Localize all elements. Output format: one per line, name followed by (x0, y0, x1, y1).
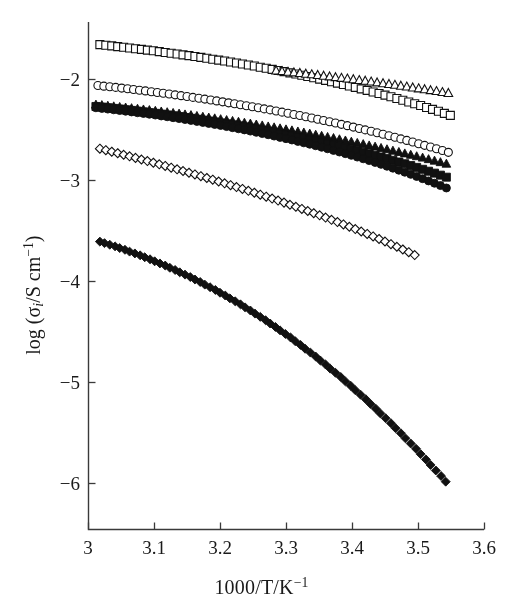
x-axis-title-main: 1000/T/K (214, 576, 293, 598)
x-tick-label-2: 3.2 (208, 538, 232, 557)
plot-canvas (0, 0, 523, 616)
y-tick-label-2: −4 (52, 272, 80, 291)
y-axis-title-middle: /S cm (22, 257, 44, 303)
x-tick-label-3: 3.3 (274, 538, 298, 557)
y-axis-title-exponent: −1 (21, 242, 36, 256)
x-tick-label-6: 3.6 (472, 538, 496, 557)
y-tick-label-1: −3 (52, 171, 80, 190)
x-axis-title: 1000/T/K−1 (0, 575, 523, 599)
x-tick-label-1: 3.1 (142, 538, 166, 557)
y-axis-title-prefix: log (σ (22, 307, 44, 355)
y-tick-label-4: −6 (52, 474, 80, 493)
y-axis-title: log (σi/S cm−1) (21, 165, 47, 425)
y-axis-title-subscript: i (30, 303, 46, 307)
x-tick-label-0: 3 (83, 538, 93, 557)
y-tick-label-0: −2 (52, 70, 80, 89)
y-axis-title-suffix: ) (22, 236, 44, 243)
conductivity-arrhenius-figure: 3 3.1 3.2 3.3 3.4 3.5 3.6 −2 −3 −4 −5 −6… (0, 0, 523, 616)
x-tick-label-4: 3.4 (340, 538, 364, 557)
x-tick-label-5: 3.5 (406, 538, 430, 557)
x-axis-title-exponent: −1 (294, 575, 309, 590)
y-tick-label-3: −5 (52, 373, 80, 392)
